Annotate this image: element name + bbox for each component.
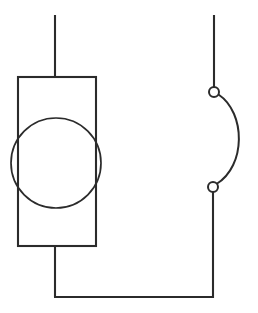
switch-terminal-upper-icon[interactable] [209, 87, 219, 97]
circuit-diagram [0, 0, 258, 313]
circuit-canvas [0, 0, 258, 313]
source-circle-symbol [11, 118, 101, 208]
source-block-rectangle [18, 77, 96, 246]
switch-terminal-lower-icon[interactable] [208, 182, 218, 192]
switch-blade-arc [217, 95, 239, 185]
